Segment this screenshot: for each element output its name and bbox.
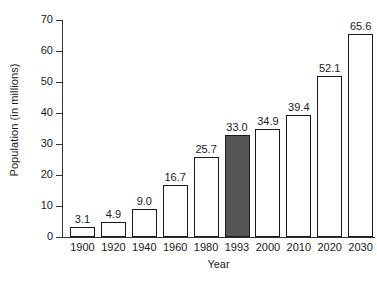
bar: 4.9 xyxy=(101,222,126,237)
y-tick-label: 10 xyxy=(41,199,53,212)
bar-value-label: 52.1 xyxy=(319,62,340,75)
plot-area: 010203040506070 3.14.99.016.725.733.034.… xyxy=(62,20,375,237)
bar: 25.7 xyxy=(194,157,219,237)
bar-value-label: 65.6 xyxy=(350,20,371,33)
y-tick-label: 20 xyxy=(41,168,53,181)
bar-value-label: 9.0 xyxy=(137,195,152,208)
y-tick-label: 70 xyxy=(41,13,53,26)
y-axis-title-text: Population (in millions) xyxy=(8,63,20,176)
bar-value-label: 4.9 xyxy=(106,208,121,221)
y-tick: 0 xyxy=(56,237,62,238)
y-tick-label: 40 xyxy=(41,106,53,119)
bar: 39.4 xyxy=(286,115,311,237)
bar: 33.0 xyxy=(225,135,250,237)
y-tick: 70 xyxy=(56,20,62,21)
y-tick-label: 0 xyxy=(47,230,53,243)
y-tick: 20 xyxy=(56,175,62,176)
y-axis-title: Population (in millions) xyxy=(2,0,26,240)
bar-value-label: 3.1 xyxy=(75,213,90,226)
y-tick: 30 xyxy=(56,144,62,145)
x-axis-line xyxy=(62,237,375,238)
x-tick-label: 2030 xyxy=(341,241,377,254)
y-tick-label: 60 xyxy=(41,44,53,57)
bar: 52.1 xyxy=(317,76,342,238)
x-axis-title: Year xyxy=(62,258,375,270)
y-axis-line xyxy=(62,20,63,237)
y-tick-label: 30 xyxy=(41,137,53,150)
bar: 3.1 xyxy=(70,227,95,237)
bar-value-label: 33.0 xyxy=(226,121,247,134)
y-tick-label: 50 xyxy=(41,75,53,88)
y-tick: 40 xyxy=(56,113,62,114)
bar: 16.7 xyxy=(163,185,188,237)
bar: 34.9 xyxy=(255,129,280,237)
bar: 9.0 xyxy=(132,209,157,237)
y-tick: 10 xyxy=(56,206,62,207)
y-tick: 60 xyxy=(56,51,62,52)
bar: 65.6 xyxy=(348,34,373,237)
bar-value-label: 16.7 xyxy=(164,171,185,184)
bar-value-label: 34.9 xyxy=(257,115,278,128)
y-tick: 50 xyxy=(56,82,62,83)
bar-value-label: 25.7 xyxy=(195,143,216,156)
bar-value-label: 39.4 xyxy=(288,101,309,114)
bar-chart: Population (in millions) 010203040506070… xyxy=(0,0,377,286)
